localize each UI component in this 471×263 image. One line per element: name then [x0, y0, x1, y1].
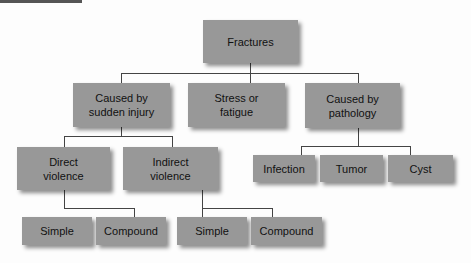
- connector: [272, 208, 273, 217]
- node-direct-compound: Compound: [96, 217, 166, 245]
- node-fractures: Fractures: [203, 20, 298, 63]
- node-indirect-simple: Simple: [177, 217, 247, 245]
- node-indirect-compound: Compound: [251, 217, 322, 245]
- connector: [64, 136, 173, 137]
- node-tumor: Tumor: [320, 155, 383, 182]
- connector: [64, 208, 134, 209]
- node-indirect-violence: Indirect violence: [123, 147, 218, 190]
- connector: [172, 136, 173, 147]
- node-infection: Infection: [253, 155, 315, 182]
- connector: [134, 208, 135, 217]
- connector: [121, 73, 359, 74]
- node-direct-violence: Direct violence: [17, 147, 110, 190]
- node-stress-fatigue: Stress or fatigue: [188, 83, 285, 127]
- connector: [358, 128, 359, 146]
- top-bar: [0, 0, 82, 3]
- connector: [202, 208, 272, 209]
- connector: [301, 146, 302, 155]
- connector: [121, 73, 122, 83]
- connector: [358, 73, 359, 83]
- connector: [64, 136, 65, 147]
- connector: [410, 146, 411, 155]
- connector: [202, 190, 203, 217]
- connector: [121, 127, 122, 136]
- node-pathology: Caused by pathology: [305, 83, 400, 128]
- connector: [64, 190, 65, 208]
- node-sudden-injury: Caused by sudden injury: [73, 83, 170, 127]
- connector: [301, 146, 411, 147]
- node-direct-simple: Simple: [22, 217, 92, 245]
- node-cyst: Cyst: [388, 155, 453, 182]
